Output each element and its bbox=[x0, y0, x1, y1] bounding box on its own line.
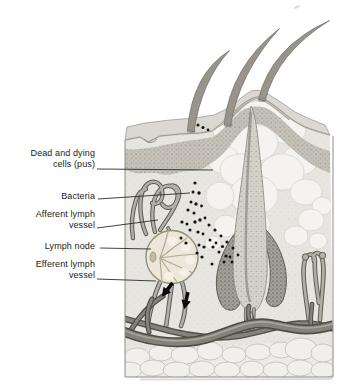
lymph-node bbox=[146, 231, 198, 284]
label-line: Lymph node bbox=[45, 241, 95, 252]
label-line: Dead and dying bbox=[31, 148, 95, 159]
label-line: vessel bbox=[36, 220, 95, 231]
label-lymph-node: Lymph node bbox=[45, 241, 95, 252]
label-bacteria: Bacteria bbox=[61, 191, 95, 202]
label-efferent-lymph-vessel: Efferent lymph vessel bbox=[36, 259, 95, 281]
label-line: vessel bbox=[36, 270, 95, 281]
skin-infection-diagram bbox=[0, 0, 341, 390]
label-line: Bacteria bbox=[61, 191, 95, 202]
figure-canvas: Dead and dying cells (pus) Bacteria Affe… bbox=[0, 0, 341, 390]
label-dead-dying-cells: Dead and dying cells (pus) bbox=[31, 148, 95, 170]
stray-mark bbox=[293, 5, 300, 10]
label-line: Afferent lymph bbox=[36, 209, 95, 220]
label-afferent-lymph-vessel: Afferent lymph vessel bbox=[36, 209, 95, 231]
label-line: Efferent lymph bbox=[36, 259, 95, 270]
label-line: cells (pus) bbox=[31, 159, 95, 170]
